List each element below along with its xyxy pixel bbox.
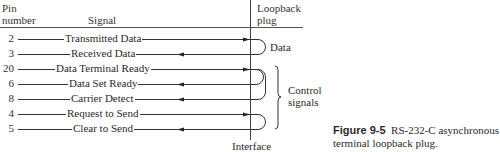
figure-number: Figure 9-5 xyxy=(333,124,386,136)
signal-label: Received Data xyxy=(70,47,136,59)
loop-20-6 xyxy=(250,70,264,85)
pin-number: 3 xyxy=(0,47,14,59)
loop-4-5 xyxy=(250,115,266,130)
signal-label: Request to Send xyxy=(66,107,140,119)
control-label-line1: Control xyxy=(288,84,322,96)
caption-text-1: RS-232-C asynchronous xyxy=(391,124,499,136)
arrow-out-4 xyxy=(243,113,250,117)
signal-label: Carrier Detect xyxy=(70,92,135,104)
interface-label: Interface xyxy=(232,140,271,152)
pin-number: 8 xyxy=(0,92,14,104)
figure-caption: Figure 9-5 RS-232-C asynchronous termina… xyxy=(333,124,499,150)
arrow-in-8 xyxy=(177,98,184,102)
pin-number: 5 xyxy=(0,122,14,134)
arrow-in-3 xyxy=(177,53,184,57)
caption-text-2: terminal loopback plug. xyxy=(333,137,499,150)
pin-number: 4 xyxy=(0,107,14,119)
control-signals-label: Control signals xyxy=(288,84,322,108)
arrow-in-6 xyxy=(177,83,184,87)
pin-number: 20 xyxy=(0,62,14,74)
data-group-label: Data xyxy=(270,41,291,53)
control-label-line2: signals xyxy=(288,96,322,108)
arrow-in-5 xyxy=(177,128,184,132)
signal-label: Clear to Send xyxy=(72,122,134,134)
caption-line1: Figure 9-5 RS-232-C asynchronous xyxy=(333,124,499,137)
signal-label: Data Terminal Ready xyxy=(55,62,151,74)
pin-number: 2 xyxy=(0,32,14,44)
signal-label: Data Set Ready xyxy=(68,77,138,89)
arrow-out-20 xyxy=(243,68,250,72)
loop-2-3 xyxy=(250,40,266,55)
arrow-out-2 xyxy=(243,38,250,42)
signal-label: Transmitted Data xyxy=(64,32,142,44)
control-signals-brace xyxy=(275,66,281,129)
pin-number: 6 xyxy=(0,77,14,89)
